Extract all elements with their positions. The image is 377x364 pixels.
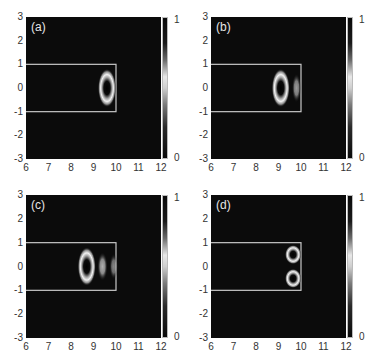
heatmap-plot-c bbox=[26, 195, 161, 338]
y-tick-label: -1 bbox=[194, 107, 208, 117]
intensity-ring bbox=[285, 269, 301, 288]
intensity-ring bbox=[98, 69, 116, 107]
colorbar-min-label: 0 bbox=[174, 153, 180, 163]
intensity-ring bbox=[285, 245, 301, 264]
panel-label: (b) bbox=[216, 20, 231, 34]
y-tick-label: 0 bbox=[194, 83, 208, 93]
y-tick-label: 1 bbox=[9, 238, 23, 248]
x-tick-label: 11 bbox=[131, 342, 147, 352]
intensity-lobe bbox=[109, 254, 118, 280]
y-tick-label: -1 bbox=[9, 285, 23, 295]
y-tick-label: 2 bbox=[9, 36, 23, 46]
colorbar-max-label: 1 bbox=[359, 193, 365, 203]
y-tick-label: 0 bbox=[9, 83, 23, 93]
y-tick-label: 3 bbox=[9, 190, 23, 200]
x-tick-label: 7 bbox=[41, 163, 57, 173]
panel-label: (d) bbox=[216, 198, 231, 212]
x-tick-label: 7 bbox=[226, 163, 242, 173]
x-tick-label: 9 bbox=[271, 342, 287, 352]
x-tick-label: 9 bbox=[86, 163, 102, 173]
x-tick-label: 12 bbox=[338, 163, 354, 173]
y-tick-label: 2 bbox=[9, 214, 23, 224]
colorbar-min-label: 0 bbox=[359, 332, 365, 342]
colorbar bbox=[347, 195, 353, 338]
y-tick-label: -2 bbox=[194, 309, 208, 319]
x-tick-label: 12 bbox=[338, 342, 354, 352]
x-tick-label: 11 bbox=[131, 163, 147, 173]
x-tick-label: 7 bbox=[41, 342, 57, 352]
y-tick-label: -1 bbox=[9, 107, 23, 117]
colorbar bbox=[162, 195, 168, 338]
colorbar-max-label: 1 bbox=[174, 193, 180, 203]
x-tick-label: 9 bbox=[86, 342, 102, 352]
y-tick-label: 0 bbox=[194, 262, 208, 272]
x-tick-label: 8 bbox=[248, 163, 264, 173]
x-tick-label: 8 bbox=[63, 163, 79, 173]
y-tick-label: -2 bbox=[9, 130, 23, 140]
intensity-lobe bbox=[292, 74, 301, 103]
x-tick-label: 12 bbox=[153, 163, 169, 173]
y-tick-label: 1 bbox=[194, 59, 208, 69]
y-tick-label: 1 bbox=[9, 59, 23, 69]
intensity-ring bbox=[272, 69, 290, 107]
y-tick-label: 0 bbox=[9, 262, 23, 272]
x-tick-label: 9 bbox=[271, 163, 287, 173]
x-tick-label: 10 bbox=[108, 163, 124, 173]
x-tick-label: 6 bbox=[18, 163, 34, 173]
x-tick-label: 12 bbox=[153, 342, 169, 352]
colorbar-max-label: 1 bbox=[359, 15, 365, 25]
heatmap-plot-b bbox=[211, 17, 346, 159]
y-tick-label: -1 bbox=[194, 285, 208, 295]
y-tick-label: -2 bbox=[9, 309, 23, 319]
intensity-lobe bbox=[97, 252, 107, 281]
x-tick-label: 7 bbox=[226, 342, 242, 352]
x-tick-label: 8 bbox=[63, 342, 79, 352]
x-tick-label: 10 bbox=[293, 163, 309, 173]
x-tick-label: 10 bbox=[293, 342, 309, 352]
colorbar-max-label: 1 bbox=[174, 15, 180, 25]
y-tick-label: 2 bbox=[194, 214, 208, 224]
y-tick-label: 2 bbox=[194, 36, 208, 46]
y-tick-label: 1 bbox=[194, 238, 208, 248]
x-tick-label: 8 bbox=[248, 342, 264, 352]
colorbar bbox=[162, 17, 168, 159]
colorbar-min-label: 0 bbox=[359, 153, 365, 163]
colorbar-min-label: 0 bbox=[174, 332, 180, 342]
y-tick-label: -2 bbox=[194, 130, 208, 140]
heatmap-plot-d bbox=[211, 195, 346, 338]
y-tick-label: 3 bbox=[194, 190, 208, 200]
y-tick-label: 3 bbox=[9, 12, 23, 22]
colorbar bbox=[347, 17, 353, 159]
x-tick-label: 6 bbox=[203, 163, 219, 173]
x-tick-label: 6 bbox=[18, 342, 34, 352]
panel-label: (c) bbox=[31, 198, 45, 212]
x-tick-label: 11 bbox=[316, 342, 332, 352]
y-tick-label: 3 bbox=[194, 12, 208, 22]
heatmap-plot-a bbox=[26, 17, 161, 159]
panel-label: (a) bbox=[31, 20, 46, 34]
x-tick-label: 6 bbox=[203, 342, 219, 352]
x-tick-label: 10 bbox=[108, 342, 124, 352]
x-tick-label: 11 bbox=[316, 163, 332, 173]
intensity-ring bbox=[78, 247, 96, 286]
